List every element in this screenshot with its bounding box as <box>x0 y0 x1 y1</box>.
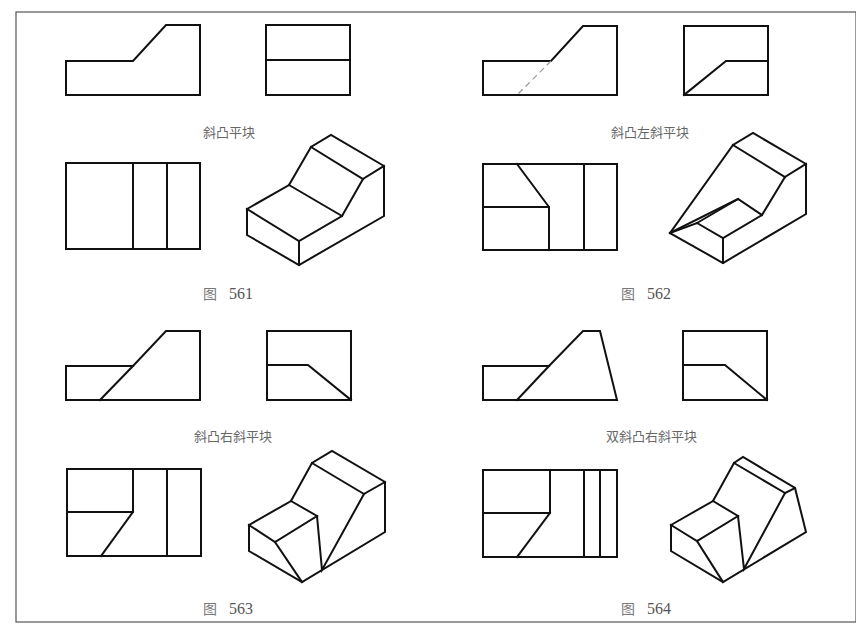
fig563-prefix: 图 <box>203 601 217 617</box>
fig562-prefix: 图 <box>621 286 635 302</box>
fig562-number: 562 <box>647 285 671 302</box>
sheet-frame <box>16 12 856 622</box>
fig563-number: 563 <box>229 600 253 617</box>
fig562-hidden-line <box>517 61 551 95</box>
fig561-caption: 斜凸平块 <box>203 125 255 140</box>
fig561-top-view <box>66 163 200 249</box>
fig563-isometric-view <box>249 451 385 582</box>
fig561-number: 561 <box>229 285 253 302</box>
fig564-top-view <box>483 470 617 557</box>
fig562-top-view <box>483 164 617 250</box>
fig561-side-view <box>266 25 350 95</box>
fig562-isometric-view <box>670 133 806 263</box>
fig561-prefix: 图 <box>203 286 217 302</box>
fig564-isometric-view <box>671 457 806 582</box>
fig564-front-view <box>483 331 617 400</box>
figure-563: 斜凸右斜平块 图 563 <box>66 331 385 617</box>
fig564-caption: 双斜凸右斜平块 <box>606 429 697 444</box>
fig563-caption: 斜凸右斜平块 <box>194 429 272 444</box>
fig563-side-view <box>267 331 351 400</box>
fig562-side-view <box>684 26 768 95</box>
fig563-top-view <box>67 469 201 556</box>
figure-561: 斜凸平块 图 561 <box>66 25 384 302</box>
fig564-prefix: 图 <box>621 601 635 617</box>
drawing-sheet: 斜凸平块 图 561 斜凸左斜平块 <box>0 0 856 636</box>
figure-564: 双斜凸右斜平块 图 564 <box>483 331 806 617</box>
fig562-caption: 斜凸左斜平块 <box>611 125 689 140</box>
fig561-front-view <box>66 25 200 95</box>
figure-562: 斜凸左斜平块 图 562 <box>483 26 806 302</box>
fig564-number: 564 <box>647 600 671 617</box>
fig564-side-view <box>683 331 767 400</box>
fig561-isometric-view <box>247 135 384 265</box>
fig562-front-view <box>483 26 617 95</box>
